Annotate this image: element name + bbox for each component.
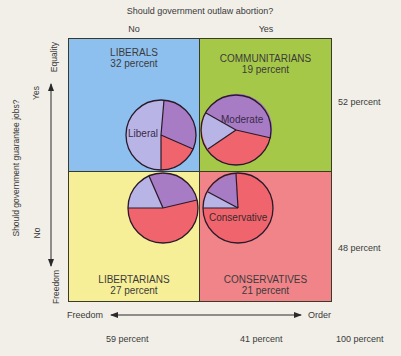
quadrant-conservatives: CONSERVATIVES 21 percent — [200, 172, 331, 301]
communitarians-name: COMMUNITARIANS — [200, 53, 331, 64]
left-axis-equality: Equality — [49, 42, 59, 72]
quadrant-libertarians: LIBERTARIANS 27 percent — [69, 172, 200, 301]
pie-label-conservative: Conservative — [209, 212, 267, 223]
row-total-top: 52 percent — [338, 97, 381, 107]
conservatives-title: CONSERVATIVES 21 percent — [200, 274, 331, 296]
conservatives-percent: 21 percent — [200, 285, 331, 296]
conservatives-name: CONSERVATIVES — [200, 274, 331, 285]
communitarians-percent: 19 percent — [200, 64, 331, 75]
communitarians-title: COMMUNITARIANS 19 percent — [200, 53, 331, 75]
bottom-axis-freedom: Freedom — [67, 310, 103, 320]
row-total-bottom: 48 percent — [338, 243, 381, 253]
libertarians-name: LIBERTARIANS — [69, 274, 199, 285]
top-axis-no: No — [68, 24, 200, 34]
quadrant-communitarians: COMMUNITARIANS 19 percent — [200, 39, 331, 172]
top-axis-question: Should government outlaw abortion? — [68, 6, 332, 16]
libertarians-percent: 27 percent — [69, 285, 199, 296]
quadrant-liberals: LIBERALS 32 percent — [69, 39, 200, 172]
top-axis-yes: Yes — [200, 24, 332, 34]
typology-grid: LIBERALS 32 percent COMMUNITARIANS 19 pe… — [68, 38, 332, 302]
left-axis-question: Should government guarantee jobs? — [11, 78, 21, 258]
left-axis-no: No — [32, 228, 42, 239]
col-total-left: 59 percent — [106, 334, 149, 344]
liberals-percent: 32 percent — [69, 58, 199, 69]
left-axis-yes: Yes — [31, 86, 41, 100]
grand-total: 100 percent — [336, 334, 384, 344]
col-total-right: 41 percent — [240, 334, 283, 344]
liberals-title: LIBERALS 32 percent — [69, 47, 199, 69]
libertarians-title: LIBERTARIANS 27 percent — [69, 274, 199, 296]
liberals-name: LIBERALS — [69, 47, 199, 58]
bottom-axis-order: Order — [308, 310, 331, 320]
left-axis-freedom: Freedom — [51, 270, 61, 304]
pie-label-moderate: Moderate — [221, 114, 263, 125]
pie-label-liberal: Liberal — [128, 128, 158, 139]
